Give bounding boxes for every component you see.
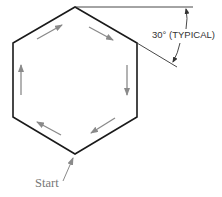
arrow-lower-right: [91, 118, 115, 133]
slanted-extension-line: [137, 43, 177, 67]
dimension-arc-upper: [186, 9, 187, 29]
start-leader-line: [63, 158, 73, 181]
hexagon-outline: [13, 7, 137, 154]
direction-arrows: [21, 25, 127, 135]
dimension-label: 30° (TYPICAL): [152, 29, 215, 40]
arrow-upper-right: [89, 27, 113, 40]
dimension-arc-lower: [173, 43, 180, 62]
start-label: Start: [35, 176, 59, 190]
hexagon-diagram: 30° (TYPICAL) Start: [0, 0, 222, 197]
